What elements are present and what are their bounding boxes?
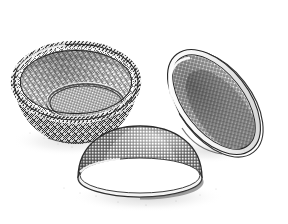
illustration-canvas: Three Wire Mesh Baskets pen-and-ink engr… [0, 0, 288, 224]
wire-baskets-illustration [0, 0, 288, 224]
